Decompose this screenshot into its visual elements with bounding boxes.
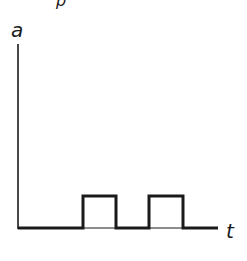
pulse-waveform bbox=[18, 196, 218, 228]
y-axis-label: a bbox=[11, 18, 23, 42]
top-fragment-label: p bbox=[55, 0, 66, 10]
x-axis-label: t bbox=[226, 219, 235, 243]
waveform-diagram: p a t bbox=[0, 0, 247, 261]
